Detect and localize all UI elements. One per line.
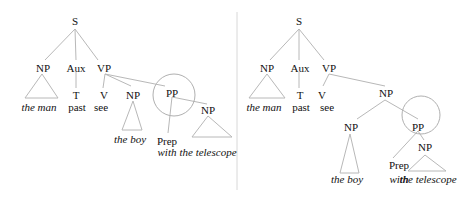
triangle-np-the-telescope	[408, 155, 446, 171]
node-np-pp: NP	[201, 104, 215, 116]
node-aux: Aux	[291, 62, 310, 74]
node-pp: PP	[412, 121, 424, 133]
tree-diagram-svg: S NP Aux VP T V NP PP NP Prep the man pa…	[0, 0, 475, 198]
edge-s-vp	[75, 29, 98, 60]
word-see: see	[320, 101, 334, 113]
node-np-inner: NP	[344, 121, 358, 133]
edge-s-vp	[299, 29, 324, 60]
left-tree: S NP Aux VP T V NP PP NP Prep the man pa…	[21, 15, 236, 158]
edge-vp-v	[323, 74, 329, 86]
triangle-np-the-boy	[122, 101, 142, 130]
node-vp: VP	[322, 62, 336, 74]
triangle-np-the-telescope	[192, 116, 232, 137]
word-the-man: the man	[21, 101, 57, 113]
edge-np-pp	[385, 100, 418, 119]
edge-s-np	[270, 29, 299, 60]
node-np-pp: NP	[418, 141, 432, 153]
node-v: V	[318, 89, 326, 101]
word-the-telescope: the telescope	[399, 173, 456, 185]
word-the-boy: the boy	[331, 173, 363, 185]
triangle-np-the-boy	[340, 134, 359, 173]
node-np-object: NP	[126, 89, 140, 101]
word-the-boy: the boy	[114, 133, 146, 145]
node-t: T	[297, 89, 304, 101]
edge-vp-np	[105, 74, 131, 86]
triangle-np-the-man	[249, 74, 285, 98]
edge-s-np	[45, 29, 75, 60]
right-tree: S NP Aux VP T V NP NP PP NP Prep the man…	[246, 15, 456, 185]
node-pp: PP	[166, 87, 178, 99]
node-v: V	[100, 89, 108, 101]
node-vp: VP	[97, 62, 111, 74]
word-past: past	[292, 101, 310, 113]
word-past: past	[68, 101, 86, 113]
triangle-np-the-man	[25, 74, 58, 98]
word-with: with	[158, 146, 177, 158]
node-s: S	[296, 15, 302, 27]
word-the-man: the man	[246, 101, 282, 113]
parse-tree-comparison-figure: S NP Aux VP T V NP PP NP Prep the man pa…	[0, 0, 475, 198]
node-t: T	[73, 89, 80, 101]
edge-vp-v	[103, 74, 105, 88]
edge-vp-np	[329, 74, 385, 86]
edge-pp-prep	[393, 131, 418, 158]
node-aux: Aux	[67, 62, 86, 74]
node-np-object: NP	[379, 87, 393, 99]
edge-np-np	[357, 100, 385, 119]
word-see: see	[94, 101, 108, 113]
node-np: NP	[36, 62, 50, 74]
edge-s-aux	[75, 29, 76, 60]
node-prep: Prep	[389, 159, 410, 171]
node-s: S	[72, 15, 78, 27]
word-the-telescope: the telescope	[179, 146, 236, 158]
node-np: NP	[260, 62, 274, 74]
